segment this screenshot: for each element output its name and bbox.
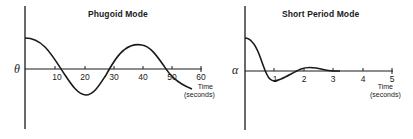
short-period-x-label-line2: (seconds)	[370, 91, 401, 99]
short-period-tick-4: 4	[361, 74, 366, 84]
short-period-plot-area	[0, 0, 413, 139]
short-period-curve	[245, 38, 340, 81]
short-period-x-label: Time (seconds)	[370, 83, 401, 99]
short-period-chart: Short Period Mode α 1 2 3 4 5 Time (seco…	[0, 0, 413, 139]
short-period-tick-2: 2	[302, 74, 307, 84]
short-period-x-label-line1: Time	[370, 83, 401, 91]
short-period-tick-1: 1	[273, 74, 278, 84]
short-period-y-label: α	[232, 63, 238, 78]
short-period-title: Short Period Mode	[282, 9, 359, 19]
short-period-tick-3: 3	[331, 74, 336, 84]
